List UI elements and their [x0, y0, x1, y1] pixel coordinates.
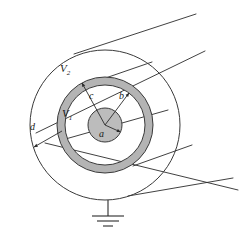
label-radius-a: a: [99, 128, 104, 139]
dimension-leader-d: [34, 131, 62, 147]
ground-symbol-icon: [92, 200, 124, 226]
label-radius-d: d: [30, 121, 36, 132]
label-inner-region-subscript: 1: [69, 114, 73, 122]
perspective-line-outer-top: [74, 14, 196, 54]
label-outer-region: V2: [60, 62, 71, 77]
label-outer-region-subscript: 2: [67, 69, 71, 77]
label-radius-b: b: [119, 90, 124, 101]
perspective-line-outer-bottom: [128, 178, 233, 196]
label-radius-c: c: [89, 90, 94, 101]
figure-container: V2 V1 a b c d: [0, 0, 249, 239]
coaxial-cable-diagram: V2 V1 a b c d: [0, 0, 249, 239]
